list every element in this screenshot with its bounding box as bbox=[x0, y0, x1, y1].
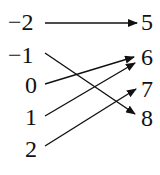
arrow-2-to-7 bbox=[45, 89, 136, 146]
arrow-0-to-6 bbox=[45, 57, 134, 84]
mapping-arrows bbox=[0, 0, 160, 175]
arrow-neg1-to-8 bbox=[45, 53, 135, 114]
